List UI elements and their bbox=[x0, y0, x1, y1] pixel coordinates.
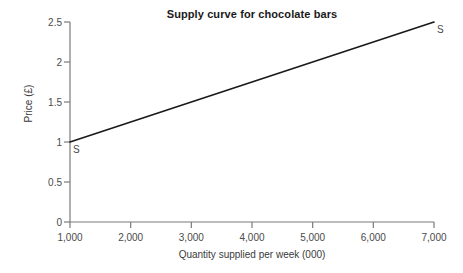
x-axis-tick-label: 1,000 bbox=[57, 232, 82, 243]
data-series bbox=[70, 22, 434, 142]
x-axis-tick-label: 7,000 bbox=[421, 232, 446, 243]
supply-curve-chart: Supply curve for chocolate bars 00.511.5… bbox=[0, 0, 463, 273]
x-axis-tick-label: 5,000 bbox=[300, 232, 325, 243]
axis-lines bbox=[70, 22, 434, 222]
supply-curve-endpoint-label: S bbox=[437, 24, 444, 35]
x-axis-tick-label: 2,000 bbox=[118, 232, 143, 243]
x-axis-title: Quantity supplied per week (000) bbox=[70, 249, 434, 260]
supply-curve-line bbox=[70, 22, 434, 142]
x-axis-tick-label: 3,000 bbox=[179, 232, 204, 243]
x-axis-tick-label: 6,000 bbox=[361, 232, 386, 243]
x-axis-ticks bbox=[70, 222, 434, 228]
x-axis-tick-label: 4,000 bbox=[239, 232, 264, 243]
y-axis-title: Price (£) bbox=[23, 69, 34, 139]
y-axis-ticks bbox=[64, 22, 70, 222]
y-axis-tick-label: 0.5 bbox=[20, 177, 62, 188]
supply-curve-endpoint-label: S bbox=[73, 144, 80, 155]
y-axis-tick-label: 2 bbox=[20, 57, 62, 68]
y-axis-tick-label: 0 bbox=[20, 217, 62, 228]
y-axis-tick-label: 2.5 bbox=[20, 17, 62, 28]
